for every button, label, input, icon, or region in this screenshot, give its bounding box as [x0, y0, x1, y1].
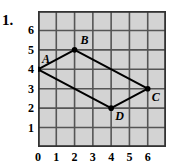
figure-panel: 1. 654321 0123456 ABCD: [0, 0, 174, 168]
x-tick-2: 2: [68, 151, 82, 163]
vertex-label-b: B: [81, 34, 89, 46]
x-tick-5: 5: [122, 151, 136, 163]
x-tick-3: 3: [86, 151, 100, 163]
y-tick-2: 2: [20, 102, 34, 114]
coordinate-grid: [38, 11, 166, 147]
grid-and-figure-svg: [38, 11, 166, 147]
x-tick-0: 0: [31, 151, 45, 163]
problem-number: 1.: [2, 12, 13, 28]
x-tick-6: 6: [141, 151, 155, 163]
y-tick-6: 6: [20, 24, 34, 36]
vertex-label-d: D: [115, 110, 124, 122]
y-tick-4: 4: [20, 63, 34, 75]
x-tick-1: 1: [49, 151, 63, 163]
y-tick-1: 1: [20, 122, 34, 134]
vertex-label-c: C: [152, 91, 160, 103]
vertex-label-a: A: [42, 53, 50, 65]
y-tick-3: 3: [20, 83, 34, 95]
x-tick-4: 4: [104, 151, 118, 163]
y-tick-5: 5: [20, 44, 34, 56]
